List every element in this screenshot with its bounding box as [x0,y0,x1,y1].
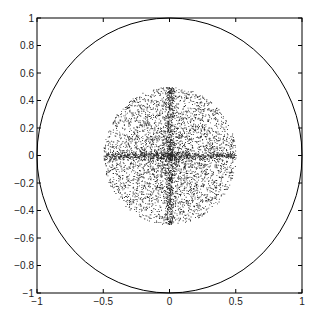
y-tick-label: −0.2 [14,178,34,189]
y-tick-label: 0.2 [20,123,34,134]
y-tick-label: 0.8 [20,40,34,51]
scatter-dots [104,87,237,225]
y-tick-label: 0.4 [20,95,34,106]
x-tick-label: 0.5 [229,296,243,307]
y-tick-label: −0.4 [14,205,34,216]
y-tick-label: 0 [28,150,34,161]
x-tick-label: −0.5 [93,296,113,307]
x-tick-label: 0 [167,296,173,307]
y-tick-label: −0.8 [14,260,34,271]
y-tick-label: −0.6 [14,233,34,244]
scatter-points [104,87,237,225]
y-tick-label: 0.6 [20,68,34,79]
x-tick-label: 1 [299,296,305,307]
scatter-chart: −1−0.500.51 10.80.60.40.20−0.2−0.4−0.6−0… [0,0,317,322]
y-tick-label: 1 [28,13,34,24]
y-tick-label: −1 [23,288,35,299]
